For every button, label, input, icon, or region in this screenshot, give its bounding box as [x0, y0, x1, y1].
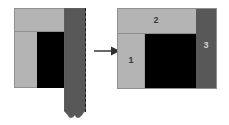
region-3-label: 3: [200, 41, 212, 50]
assembled-view-figure: 2 1 3: [117, 8, 217, 89]
exploded-core-block: [37, 32, 64, 88]
diagram-canvas: 2 1 3: [0, 0, 229, 125]
detached-strip-shape: [64, 8, 86, 118]
region-2-label: 2: [150, 16, 162, 25]
exploded-top-band: [14, 8, 64, 32]
exploded-view-figure: [14, 8, 86, 120]
assembled-core-block: [145, 34, 196, 88]
region-1-label: 1: [125, 56, 137, 65]
detached-strip-cut-line: [85, 8, 86, 112]
exploded-side-column: [14, 32, 37, 88]
exploded-detached-strip: [64, 8, 86, 118]
